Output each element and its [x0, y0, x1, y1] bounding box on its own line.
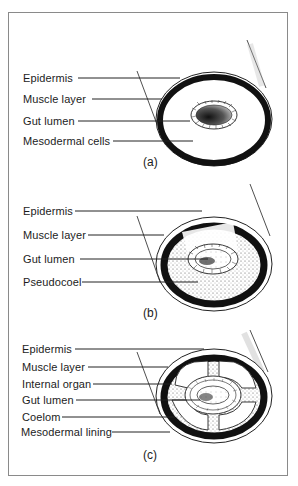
label-c-gut-lumen: Gut lumen	[22, 394, 74, 406]
label-b-muscle-layer: Muscle layer	[23, 229, 86, 241]
label-a-gut-lumen: Gut lumen	[23, 115, 75, 127]
caption-c: (c)	[143, 448, 157, 462]
panel-b-diagram	[75, 184, 272, 311]
label-b-pseudocoel: Pseudocoel	[23, 276, 82, 288]
label-c-coelom: Coelom	[22, 411, 61, 423]
label-a-epidermis: Epidermis	[23, 72, 73, 84]
caption-a: (a)	[143, 155, 158, 169]
caption-b: (b)	[143, 306, 158, 320]
label-b-epidermis: Epidermis	[23, 205, 73, 217]
panel-a-diagram	[78, 40, 272, 166]
label-c-epidermis: Epidermis	[22, 343, 72, 355]
label-a-mesodermal-cells: Mesodermal cells	[23, 135, 110, 147]
label-c-internal-organ: Internal organ	[22, 378, 91, 390]
label-c-mesodermal-lining: Mesodermal lining	[21, 426, 112, 438]
label-a-muscle-layer: Muscle layer	[23, 93, 86, 105]
label-b-gut-lumen: Gut lumen	[23, 253, 75, 265]
label-c-muscle-layer: Muscle layer	[22, 361, 85, 373]
